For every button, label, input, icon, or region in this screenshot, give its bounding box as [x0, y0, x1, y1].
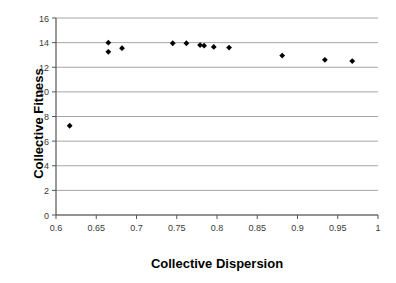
- x-tick-label: 0.75: [168, 223, 186, 233]
- y-tick-label: 2: [44, 186, 49, 196]
- scatter-chart: Collective Fitness 0246810121416 0.60.65…: [0, 0, 396, 283]
- y-tick-label: 16: [39, 14, 49, 24]
- gridlines-group: [56, 18, 378, 215]
- data-point-marker: [67, 123, 73, 129]
- data-points-group: [67, 40, 355, 129]
- x-axis-title: Collective Dispersion: [56, 256, 378, 271]
- data-point-marker: [226, 45, 232, 51]
- y-tick-label: 6: [44, 137, 49, 147]
- x-tick-group: 0.60.650.70.750.80.850.90.951: [50, 215, 381, 233]
- x-tick-label: 0.9: [291, 223, 304, 233]
- data-point-marker: [279, 53, 285, 59]
- x-tick-label: 0.7: [130, 223, 143, 233]
- x-tick-label: 0.85: [248, 223, 266, 233]
- data-point-marker: [322, 57, 328, 63]
- x-tick-label: 0.8: [211, 223, 224, 233]
- y-tick-label: 0: [44, 211, 49, 221]
- data-point-marker: [105, 49, 111, 55]
- data-point-marker: [105, 40, 111, 46]
- data-point-marker: [349, 58, 355, 64]
- data-point-marker: [211, 44, 217, 50]
- data-point-marker: [184, 40, 190, 46]
- y-tick-label: 14: [39, 38, 49, 48]
- data-point-marker: [170, 40, 176, 46]
- data-point-marker: [201, 43, 207, 49]
- y-tick-label: 8: [44, 112, 49, 122]
- x-tick-label: 0.95: [329, 223, 347, 233]
- y-tick-label: 12: [39, 63, 49, 73]
- y-tick-label: 4: [44, 161, 49, 171]
- x-tick-label: 0.6: [50, 223, 63, 233]
- x-tick-label: 1: [375, 223, 380, 233]
- y-tick-group: 0246810121416: [39, 14, 56, 221]
- x-tick-label: 0.65: [87, 223, 105, 233]
- y-tick-label: 10: [39, 87, 49, 97]
- data-point-marker: [119, 45, 125, 51]
- plot-area: 0246810121416 0.60.650.70.750.80.850.90.…: [0, 0, 396, 283]
